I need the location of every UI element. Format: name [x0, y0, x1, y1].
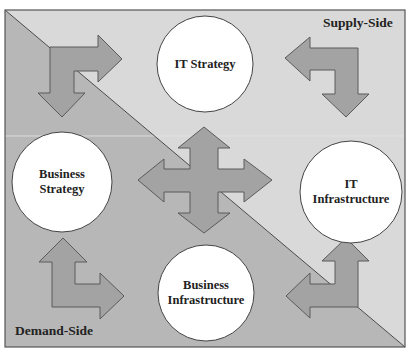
business-infrastructure-node: [158, 245, 254, 341]
it-strategy-node: [157, 16, 253, 112]
supply-side-label: Supply-Side: [323, 15, 393, 31]
demand-side-label: Demand-Side: [15, 323, 93, 339]
strategic-alignment-diagram: [0, 0, 410, 356]
business-strategy-node: [12, 132, 112, 232]
it-infrastructure-node: [300, 141, 402, 243]
